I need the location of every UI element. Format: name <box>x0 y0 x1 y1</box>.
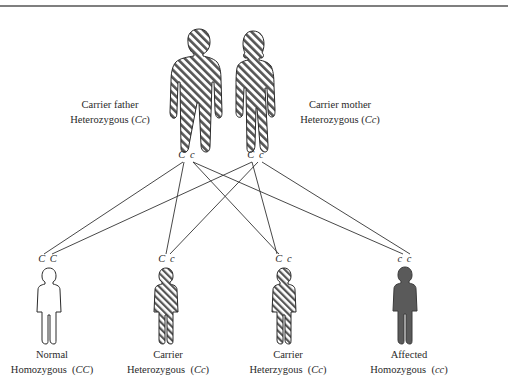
mother-label: Carrier mother Heterozygous (Cc) <box>300 97 380 127</box>
child-carrier2-figure <box>272 268 296 344</box>
child-normal-genotype: CC <box>76 364 90 375</box>
mother-genotype: Cc <box>365 114 377 125</box>
child-affected-genotype: cc <box>435 364 444 375</box>
mother-label-line2: Heterozygous (Cc) <box>300 112 380 127</box>
child-carrier2-label-line1: Carrier <box>250 347 327 362</box>
child-carrier1-alleles: C c <box>158 253 175 264</box>
mother-label-line1: Carrier mother <box>300 97 380 112</box>
child-carrier2-label-line2: Heterzygous (Cc) <box>250 362 327 377</box>
child-affected-label: Affected Homozygous (cc) <box>370 347 448 377</box>
inheritance-diagram <box>0 0 508 385</box>
child-affected-figure <box>393 267 417 344</box>
child-carrier2-alleles: C c <box>275 253 292 264</box>
child-normal-figure <box>37 268 61 344</box>
child-normal-label-line2: Homozygous (CC) <box>11 362 93 377</box>
father-genotype: Cc <box>135 114 147 125</box>
child-carrier1-label-line1: Carrier <box>127 347 209 362</box>
child-carrier1-figure <box>154 268 178 344</box>
child-affected-label-line2: Homozygous (cc) <box>370 362 448 377</box>
child-affected-label-line1: Affected <box>370 347 448 362</box>
child-carrier1-genotype: Cc <box>194 364 206 375</box>
mother-alleles: C c <box>247 149 264 160</box>
child-normal-alleles: C C <box>38 253 58 264</box>
child-normal-label: Normal Homozygous (CC) <box>11 347 93 377</box>
child-carrier1-label-line2: Heterozygous (Cc) <box>127 362 209 377</box>
inheritance-lines <box>44 162 410 254</box>
father-label-line1: Carrier father <box>70 97 150 112</box>
father-label: Carrier father Heterozygous (Cc) <box>70 97 150 127</box>
child-carrier2-genotype: Cc <box>311 364 323 375</box>
child-carrier2-label: Carrier Heterzygous (Cc) <box>250 347 327 377</box>
mother-figure <box>236 31 275 152</box>
father-label-line2: Heterozygous (Cc) <box>70 112 150 127</box>
child-normal-label-line1: Normal <box>11 347 93 362</box>
child-affected-alleles: c c <box>398 253 413 264</box>
father-figure <box>170 29 222 152</box>
father-alleles: C c <box>178 149 195 160</box>
child-carrier1-label: Carrier Heterozygous (Cc) <box>127 347 209 377</box>
